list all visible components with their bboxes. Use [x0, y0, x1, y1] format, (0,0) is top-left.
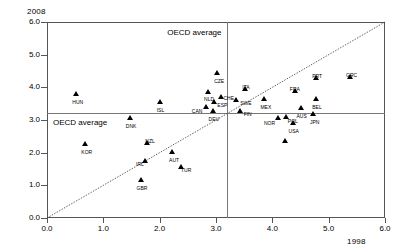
data-point-marker	[313, 96, 319, 101]
data-point-marker	[261, 96, 267, 101]
data-point-label: ESP	[217, 102, 227, 108]
data-point-label: BEL	[312, 104, 321, 110]
data-point-label: PRT	[312, 73, 322, 79]
data-point-label: CAN	[192, 108, 203, 114]
data-point-marker	[203, 104, 209, 109]
data-point-label: AUT	[169, 157, 179, 163]
data-point-marker	[73, 91, 79, 96]
data-point-label: ITA	[242, 84, 249, 90]
data-point-label: CZE	[214, 78, 224, 84]
data-point-label: GRC	[346, 72, 357, 78]
data-point-label: FIN	[244, 111, 252, 117]
data-point-marker	[214, 70, 220, 75]
data-point-marker	[298, 105, 304, 110]
data-point-marker	[233, 97, 239, 102]
data-point-marker	[157, 99, 163, 104]
data-point-label: KOR	[81, 149, 92, 155]
data-point-label: DEU	[209, 116, 220, 122]
data-point-label: NOR	[264, 120, 275, 126]
data-point-marker	[310, 111, 316, 116]
data-point-marker	[210, 108, 216, 113]
data-point-label: IRL	[136, 161, 144, 167]
data-point-marker	[138, 177, 144, 182]
data-point-label: USA	[289, 128, 299, 134]
data-point-label: FRA	[290, 86, 300, 92]
data-point-label: AUS	[297, 113, 307, 119]
data-point-marker	[282, 138, 288, 143]
data-point-marker	[290, 120, 296, 125]
data-point-label: SWE	[240, 100, 251, 106]
oecd-average-caption-vertical: OECD average	[167, 28, 221, 37]
data-point-marker	[237, 108, 243, 113]
scatter-chart: 2008 1998 0.01.02.03.04.05.06.00.01.02.0…	[0, 0, 408, 251]
data-point-label: DNK	[126, 123, 137, 129]
data-point-label: GBR	[137, 185, 148, 191]
data-point-label: HUN	[72, 99, 83, 105]
data-point-label: TUR	[181, 167, 191, 173]
data-point-label: JPN	[310, 119, 319, 125]
data-point-label: NZL	[145, 138, 154, 144]
data-point-marker	[275, 115, 281, 120]
data-point-marker	[82, 141, 88, 146]
data-point-label: MEX	[260, 104, 271, 110]
data-point-marker	[205, 89, 211, 94]
oecd-average-caption-horizontal: OECD average	[53, 118, 107, 127]
data-point-marker	[169, 149, 175, 154]
data-point-label: ISL	[157, 107, 165, 113]
data-point-marker	[127, 115, 133, 120]
